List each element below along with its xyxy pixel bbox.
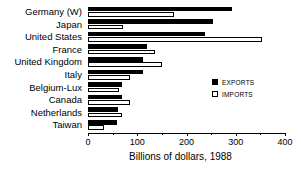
bar-row (88, 82, 285, 95)
bar-imports (88, 75, 130, 80)
bar-imports (88, 88, 119, 93)
bar-exports (88, 57, 143, 62)
x-axis-tick-label: 400 (277, 137, 292, 147)
x-axis-title: Billions of dollars, 1988 (0, 151, 301, 162)
legend: EXPORTS IMPORTS (212, 77, 254, 101)
x-axis-tick (88, 133, 89, 136)
legend-swatch-exports-icon (212, 79, 218, 85)
x-axis-minor-tick (211, 133, 212, 135)
bar-exports (88, 19, 213, 24)
bar-exports (88, 82, 122, 87)
x-axis-minor-tick (260, 133, 261, 135)
category-label: France (0, 44, 85, 57)
category-label: Canada (0, 94, 85, 107)
category-label: Belgium-Lux (0, 82, 85, 95)
x-axis-tick (285, 133, 286, 136)
bar-exports (88, 70, 143, 75)
bar-imports (88, 25, 123, 30)
x-axis-tick-label: 200 (179, 137, 194, 147)
plot-area (88, 6, 285, 132)
legend-item-exports: EXPORTS (212, 77, 254, 87)
legend-label-imports: IMPORTS (222, 91, 253, 98)
bar-exports (88, 107, 118, 112)
x-axis-tick (187, 133, 188, 136)
category-label: United Kingdom (0, 56, 85, 69)
bar-imports (88, 37, 262, 42)
bar-exports (88, 7, 232, 12)
bar-imports (88, 12, 174, 17)
category-label: United States (0, 31, 85, 44)
bar-imports (88, 100, 130, 105)
x-axis-minor-tick (162, 133, 163, 135)
bar-row (88, 107, 285, 120)
x-axis-tick-label: 300 (228, 137, 243, 147)
bar-row (88, 6, 285, 19)
bar-imports (88, 62, 162, 67)
bar-exports (88, 95, 122, 100)
bar-exports (88, 44, 147, 49)
x-axis-minor-tick (113, 133, 114, 135)
bar-row (88, 31, 285, 44)
legend-item-imports: IMPORTS (212, 89, 254, 99)
x-axis-tick (137, 133, 138, 136)
category-label: Italy (0, 69, 85, 82)
x-axis-tick (236, 133, 237, 136)
bar-row (88, 44, 285, 57)
bar-exports (88, 32, 205, 37)
bar-imports (88, 113, 122, 118)
bar-row (88, 69, 285, 82)
bar-imports (88, 50, 155, 55)
category-label: Germany (W) (0, 6, 85, 19)
category-label: Japan (0, 19, 85, 32)
bar-rows (88, 6, 285, 132)
x-axis-tick-label: 0 (85, 137, 90, 147)
bar-row (88, 19, 285, 32)
category-label: Taiwan (0, 119, 85, 132)
x-axis-tick-label: 100 (130, 137, 145, 147)
bar-imports (88, 125, 104, 130)
legend-label-exports: EXPORTS (222, 79, 254, 86)
category-axis-labels: Germany (W) Japan United States France U… (0, 6, 85, 132)
bar-row (88, 56, 285, 69)
category-label: Netherlands (0, 107, 85, 120)
bar-chart: Germany (W) Japan United States France U… (0, 0, 301, 175)
bar-row (88, 119, 285, 132)
legend-swatch-imports-icon (212, 91, 218, 97)
bar-row (88, 94, 285, 107)
bar-exports (88, 120, 117, 125)
